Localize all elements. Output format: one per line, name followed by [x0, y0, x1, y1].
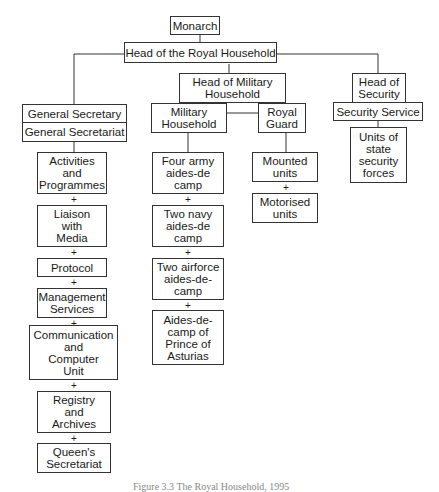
queens-secretariat-box: Queen's Secretariat [37, 443, 111, 473]
registry-archives-box: Registry and Archives [37, 391, 111, 433]
plus-connector: + [69, 278, 79, 288]
general-secretariat-box: General Secretariat [22, 122, 127, 142]
plus-connector: + [183, 195, 193, 205]
head-security-box: Head of Security [352, 73, 406, 103]
figure-caption: Figure 3.3 The Royal Household, 1995 [133, 481, 289, 492]
communication-computer-unit-box: Communication and Computer Unit [29, 325, 118, 380]
head-military-household-box: Head of Military Household [179, 73, 286, 103]
motorised-units-box: Motorised units [252, 193, 318, 223]
monarch-box: Monarch [170, 16, 220, 35]
plus-connector: + [69, 195, 79, 205]
state-security-units-box: Units of state security forces [350, 127, 407, 183]
military-household-box: Military Household [151, 103, 227, 133]
plus-connector: + [281, 183, 291, 193]
mounted-units-box: Mounted units [252, 152, 318, 182]
management-services-box: Management Services [37, 288, 107, 318]
plus-connector: + [69, 381, 79, 391]
prince-asturias-aides-box: Aides-de- camp of Prince of Asturias [152, 310, 224, 365]
four-army-aides-box: Four army aides-de camp [152, 152, 224, 194]
plus-connector: + [69, 248, 79, 258]
two-navy-aides-box: Two navy aides-de camp [152, 205, 224, 247]
two-airforce-aides-box: Two airforce aides-de- camp [152, 258, 224, 300]
general-secretary-box: General Secretary [22, 104, 127, 123]
activities-programmes-box: Activities and Programmes [37, 152, 107, 194]
liaison-media-box: Liaison with Media [37, 205, 107, 247]
security-service-box: Security Service [333, 102, 423, 121]
protocol-box: Protocol [37, 258, 107, 277]
head-royal-household-box: Head of the Royal Household [124, 42, 277, 63]
royal-guard-box: Royal Guard [258, 103, 306, 133]
plus-connector: + [183, 248, 193, 258]
